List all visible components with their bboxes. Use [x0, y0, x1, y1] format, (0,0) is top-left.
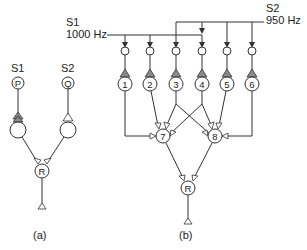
node-6-label: 6	[249, 79, 254, 90]
synapse-icon	[34, 158, 41, 164]
node-2-label: 2	[147, 79, 152, 90]
node-5-label: 5	[224, 79, 229, 90]
synapse-icon	[155, 123, 161, 129]
s1-label-a: S1	[11, 62, 24, 74]
output-synapse-icon	[184, 218, 192, 224]
receptor-6	[248, 47, 256, 55]
caption-a: (a)	[33, 229, 46, 241]
s1-label-b: S1	[66, 16, 79, 28]
synapse-icon	[150, 133, 156, 139]
synapse-icon	[179, 175, 185, 181]
synapse-icon	[216, 123, 222, 129]
s2-label-a: S2	[61, 62, 74, 74]
receptor-5	[223, 47, 231, 55]
receptor-1	[121, 47, 129, 55]
synapse-icon	[192, 175, 198, 181]
synapse-icon	[202, 130, 208, 136]
synapse-icon	[164, 122, 170, 129]
excitatory-synapse-icon	[120, 69, 130, 77]
output-synapse-icon	[38, 203, 46, 209]
neuron-right-a	[60, 122, 76, 138]
receptor-4	[198, 47, 206, 55]
s2-label-b: S2	[266, 2, 279, 14]
synapse-icon	[44, 158, 51, 164]
diagram-b: S1 1000 Hz S2 950 Hz	[66, 2, 301, 241]
s2-freq: 950 Hz	[266, 14, 301, 26]
node-p-label: P	[15, 78, 21, 89]
receptor-2	[146, 47, 154, 55]
s1-freq: 1000 Hz	[66, 28, 107, 40]
node-7-label: 7	[160, 131, 165, 142]
synapse-icon	[63, 113, 73, 121]
node-r-b-label: R	[185, 183, 192, 194]
neuron-left-a	[10, 122, 26, 138]
excitatory-synapse-icon	[171, 69, 181, 77]
caption-b: (b)	[179, 229, 192, 241]
node-q-label: Q	[64, 78, 71, 89]
excitatory-synapse-icon	[197, 69, 207, 77]
excitatory-synapse-icon	[145, 69, 155, 77]
node-4-label: 4	[199, 79, 204, 90]
diagram-a: S1 S2 P Q R (a)	[10, 62, 76, 241]
node-8-label: 8	[212, 131, 217, 142]
node-1-label: 1	[122, 79, 127, 90]
node-3-label: 3	[173, 79, 178, 90]
synapse-icon	[170, 130, 176, 136]
excitatory-synapse-icon	[222, 69, 232, 77]
node-r-a-label: R	[39, 166, 46, 177]
receptor-3	[172, 47, 180, 55]
excitatory-synapse-icon	[247, 69, 257, 77]
synapse-icon	[222, 133, 228, 139]
synapse-icon	[208, 122, 214, 129]
neural-network-diagram: S1 S2 P Q R (a) S1 1000 Hz	[0, 0, 307, 250]
